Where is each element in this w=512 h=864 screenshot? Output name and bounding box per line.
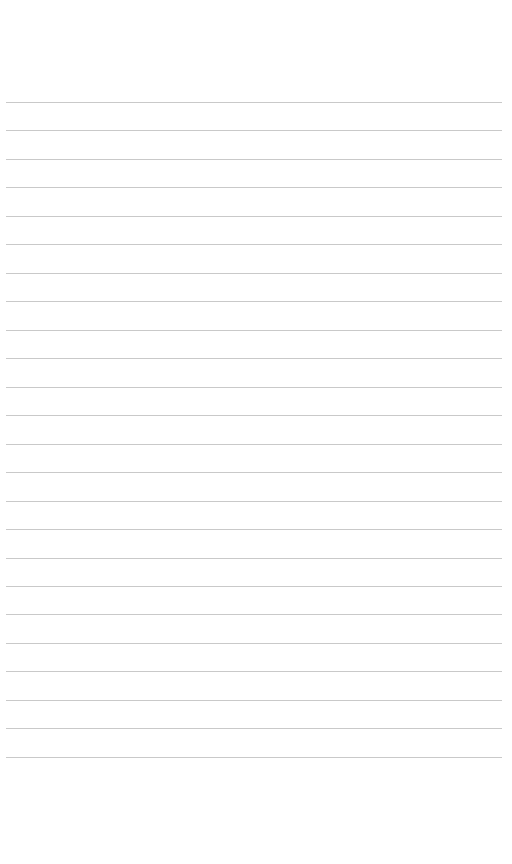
ruled-line	[6, 415, 502, 416]
ruled-line	[6, 614, 502, 615]
ruled-line	[6, 216, 502, 217]
ruled-line	[6, 273, 502, 274]
ruled-line	[6, 472, 502, 473]
ruled-line	[6, 244, 502, 245]
ruled-line	[6, 757, 502, 758]
lined-paper-page	[0, 0, 512, 864]
ruled-line	[6, 444, 502, 445]
ruled-line	[6, 529, 502, 530]
ruled-line	[6, 501, 502, 502]
ruled-line	[6, 130, 502, 131]
ruled-line	[6, 586, 502, 587]
ruled-line	[6, 728, 502, 729]
ruled-line	[6, 700, 502, 701]
ruled-line	[6, 358, 502, 359]
ruled-line	[6, 102, 502, 103]
ruled-line	[6, 187, 502, 188]
ruled-line	[6, 330, 502, 331]
ruled-line	[6, 159, 502, 160]
ruled-line	[6, 301, 502, 302]
ruled-line	[6, 671, 502, 672]
ruled-line	[6, 643, 502, 644]
ruled-line	[6, 558, 502, 559]
ruled-line	[6, 387, 502, 388]
